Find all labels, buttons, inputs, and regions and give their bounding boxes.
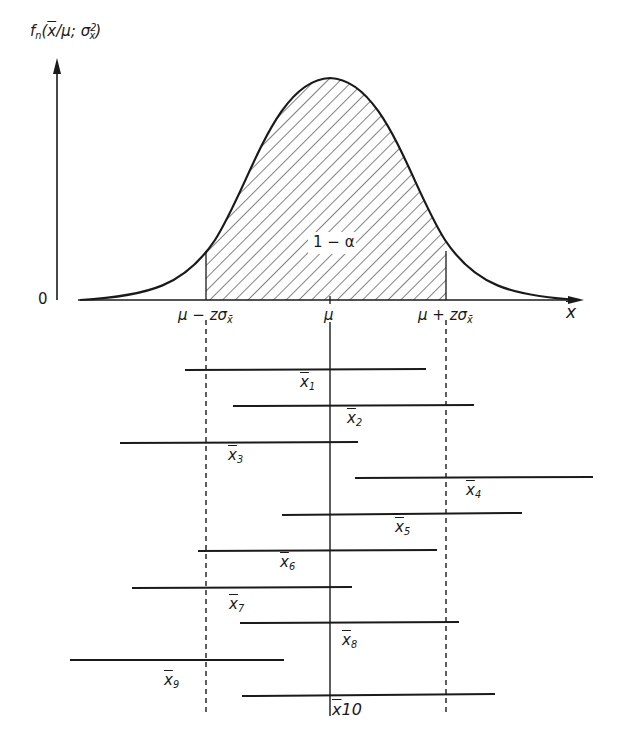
upper-bound-sub: x̄ [467, 314, 473, 325]
subscript: 5 [404, 526, 410, 537]
xbar: x [342, 631, 351, 649]
interval-8 [240, 622, 459, 623]
upper-bound-text: μ + zσ [418, 306, 467, 324]
interval-label-5: x5 [395, 518, 410, 537]
lower-bound-text: μ − zσ [178, 306, 227, 324]
interval-7 [132, 587, 352, 588]
interval-label-8: x8 [342, 631, 357, 650]
subscript: 2 [356, 417, 362, 428]
shaded-area-1-minus-alpha [80, 78, 580, 300]
xbar: x [228, 446, 237, 464]
subscript: 4 [475, 489, 481, 500]
subscript: 7 [238, 603, 244, 614]
y-label-mid: /μ; σ [56, 22, 90, 40]
xbar: x [347, 409, 356, 427]
subscript: 10 [341, 700, 361, 719]
subscript: 6 [289, 561, 295, 572]
interval-label-7: x7 [229, 595, 244, 614]
xbar: x [164, 671, 173, 689]
interval-4 [355, 477, 593, 478]
interval-label-2: x2 [347, 409, 362, 428]
confidence-intervals [70, 369, 593, 696]
xbar: x [300, 373, 309, 391]
interval-label-9: x9 [164, 671, 179, 690]
xbar: x [466, 481, 475, 499]
y-axis-arrow-icon [53, 58, 61, 74]
mean-label: μ [324, 306, 334, 324]
upper-bound-label: μ + zσx̄ [418, 306, 473, 325]
interval-1 [185, 369, 426, 370]
x-axis-label: x [566, 302, 576, 322]
interval-label-4: x4 [466, 481, 481, 500]
interval-5 [282, 513, 522, 515]
interval-label-1: x1 [300, 373, 315, 392]
xbar: x [395, 518, 404, 536]
interval-label-3: x3 [228, 446, 243, 465]
y-label-close: ) [95, 22, 101, 40]
subscript: 8 [351, 639, 357, 650]
confidence-interval-diagram: fn(x/μ; σ2x) 0 x μ − zσx̄ μ μ + zσx̄ 1 −… [0, 0, 630, 754]
origin-label: 0 [38, 290, 48, 308]
subscript: 9 [173, 679, 179, 690]
interval-label-10: x10 [332, 700, 362, 719]
interval-label-6: x6 [280, 553, 295, 572]
interval-10 [242, 694, 495, 696]
interval-2 [233, 405, 474, 406]
area-label: 1 − α [313, 233, 355, 251]
xbar: x [229, 595, 238, 613]
lower-bound-label: μ − zσx̄ [178, 306, 233, 325]
xbar: x [280, 553, 289, 571]
y-axis [53, 58, 61, 300]
interval-3 [120, 442, 358, 443]
subscript: 1 [309, 381, 315, 392]
subscript: 3 [237, 454, 243, 465]
interval-6 [198, 550, 437, 551]
y-axis-label: fn(x/μ; σ2x) [30, 22, 101, 41]
y-label-xbar: x [47, 22, 56, 40]
lower-bound-sub: x̄ [227, 314, 233, 325]
